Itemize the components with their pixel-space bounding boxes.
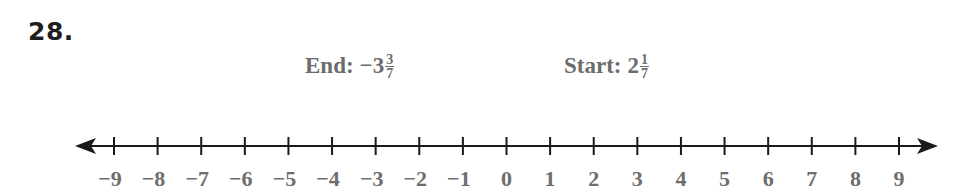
tick-label: 5 bbox=[719, 166, 730, 192]
end-label: End: −3 3 7 bbox=[305, 52, 394, 79]
tick-label: 3 bbox=[632, 166, 643, 192]
tick-label: 6 bbox=[763, 166, 774, 192]
tick-label: −5 bbox=[273, 166, 297, 192]
end-numerator: 3 bbox=[385, 53, 394, 67]
start-fraction: 1 7 bbox=[640, 53, 649, 80]
problem-number: 28. bbox=[28, 17, 74, 46]
start-label: Start: 2 1 7 bbox=[564, 52, 649, 79]
tick-label: −9 bbox=[98, 166, 122, 192]
tick-label: −7 bbox=[185, 166, 209, 192]
tick-label: 9 bbox=[894, 166, 905, 192]
end-prefix: End: bbox=[305, 53, 354, 79]
start-prefix: Start: bbox=[564, 53, 621, 79]
tick-label: 1 bbox=[545, 166, 556, 192]
start-numerator: 1 bbox=[640, 53, 649, 67]
tick-label: 8 bbox=[850, 166, 861, 192]
end-whole: −3 bbox=[360, 53, 385, 79]
tick-label: −2 bbox=[403, 166, 427, 192]
tick-label: −4 bbox=[316, 166, 340, 192]
tick-label: −6 bbox=[229, 166, 253, 192]
tick-label: −3 bbox=[360, 166, 384, 192]
tick-label: 0 bbox=[501, 166, 512, 192]
number-line bbox=[0, 120, 979, 170]
start-denominator: 7 bbox=[641, 67, 648, 80]
start-whole: 2 bbox=[627, 53, 639, 79]
tick-label: 2 bbox=[588, 166, 599, 192]
end-denominator: 7 bbox=[386, 67, 393, 80]
tick-label: 4 bbox=[675, 166, 686, 192]
tick-label: −8 bbox=[142, 166, 166, 192]
tick-label: 7 bbox=[806, 166, 817, 192]
tick-label: −1 bbox=[447, 166, 471, 192]
end-fraction: 3 7 bbox=[385, 53, 394, 80]
